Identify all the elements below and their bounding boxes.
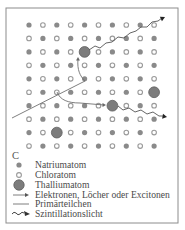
sodium-atom: [26, 103, 31, 108]
sodium-atom: [138, 49, 143, 54]
sodium-atom: [68, 117, 73, 122]
chlorine-atom: [27, 63, 32, 68]
sodium-atom: [40, 63, 45, 68]
sodium-atom: [54, 22, 59, 27]
chlorine-atom: [41, 23, 46, 28]
nai-tl-scintillator-diagram: C Natriumatom Chloratom Thalliumatom Ele…: [0, 0, 185, 230]
thallium-atom: [79, 47, 90, 58]
sodium-atom: [96, 117, 101, 122]
chlorine-atom: [82, 63, 87, 68]
chlorine-atom: [68, 77, 73, 82]
sodium-atom: [110, 130, 115, 135]
sodium-atom: [96, 143, 101, 148]
sodium-atom: [82, 130, 87, 135]
sodium-atom: [68, 63, 73, 68]
chlorine-atom: [55, 144, 60, 149]
chlorine-atom: [55, 117, 60, 122]
panel-label: C: [12, 150, 19, 161]
thallium-atom: [51, 127, 62, 138]
sodium-atom: [152, 63, 157, 68]
chlorine-atom: [55, 36, 60, 41]
thallium-atom: [107, 100, 118, 111]
sodium-atom: [68, 90, 73, 95]
chlorine-atom: [27, 117, 32, 122]
chlorine-atom: [124, 23, 129, 28]
chlorine-atom: [138, 117, 143, 122]
chlorine-atom: [82, 90, 87, 95]
sodium-atom: [152, 117, 157, 122]
legend-label: Szintillationslicht: [35, 208, 103, 219]
chlorine-atom: [68, 103, 73, 108]
sodium-atom: [40, 117, 45, 122]
sodium-atom: [40, 90, 45, 95]
chlorine-atom: [138, 63, 143, 68]
sodium-atom: [110, 76, 115, 81]
sodium-atom: [138, 76, 143, 81]
sodium-atom: [152, 143, 157, 148]
sodium-atom: [110, 22, 115, 27]
chlorine-atom: [96, 23, 101, 28]
sodium-atom: [138, 103, 143, 108]
chlorine-atom: [152, 50, 157, 55]
chlorine-atom: [138, 144, 143, 149]
chlorine-atom: [138, 36, 143, 41]
sodium-atom: [124, 63, 129, 68]
chlorine-atom: [68, 130, 73, 135]
chlorine-atom: [152, 103, 157, 108]
chlorine-atom: [110, 144, 115, 149]
thallium-disc-icon: [14, 180, 24, 190]
sodium-atom: [54, 49, 59, 54]
sodium-atom: [124, 90, 129, 95]
sodium-atom: [82, 22, 87, 27]
chlorine-atom: [96, 130, 101, 135]
chlorine-atom: [110, 63, 115, 68]
sodium-atom: [26, 130, 31, 135]
chlorine-atom: [27, 144, 32, 149]
chlorine-atom: [41, 103, 46, 108]
sodium-atom: [68, 143, 73, 148]
sodium-atom: [40, 143, 45, 148]
sodium-atom: [124, 117, 129, 122]
sodium-atom: [96, 36, 101, 41]
chlorine-atom: [124, 50, 129, 55]
chlorine-atom: [110, 117, 115, 122]
sodium-atom: [26, 22, 31, 27]
chlorine-ring-icon: [17, 173, 22, 178]
chlorine-atom: [27, 36, 32, 41]
chlorine-atom: [152, 23, 157, 28]
sodium-atom: [152, 36, 157, 41]
chlorine-atom: [96, 77, 101, 82]
sodium-atom: [26, 49, 31, 54]
sodium-atom: [138, 130, 143, 135]
sodium-atom: [96, 63, 101, 68]
chlorine-atom: [55, 63, 60, 68]
thallium-atom: [149, 87, 160, 98]
chlorine-atom: [82, 117, 87, 122]
chlorine-atom: [124, 77, 129, 82]
sodium-atom: [40, 36, 45, 41]
chlorine-atom: [82, 144, 87, 149]
sodium-atom: [26, 76, 31, 81]
chlorine-atom: [152, 77, 157, 82]
chlorine-atom: [41, 130, 46, 135]
chlorine-atom: [110, 90, 115, 95]
chlorine-atom: [68, 50, 73, 55]
sodium-atom: [68, 36, 73, 41]
chlorine-atom: [41, 50, 46, 55]
chlorine-atom: [68, 23, 73, 28]
sodium-atom: [110, 49, 115, 54]
chlorine-atom: [124, 103, 129, 108]
chlorine-atom: [41, 77, 46, 82]
chlorine-atom: [82, 36, 87, 41]
sodium-atom: [54, 76, 59, 81]
chlorine-atom: [27, 90, 32, 95]
chlorine-atom: [124, 130, 129, 135]
chlorine-atom: [138, 90, 143, 95]
sodium-atom: [54, 103, 59, 108]
chlorine-atom: [96, 50, 101, 55]
sodium-dot-icon: [16, 162, 21, 167]
sodium-atom: [96, 90, 101, 95]
sodium-atom: [124, 143, 129, 148]
chlorine-atom: [152, 130, 157, 135]
